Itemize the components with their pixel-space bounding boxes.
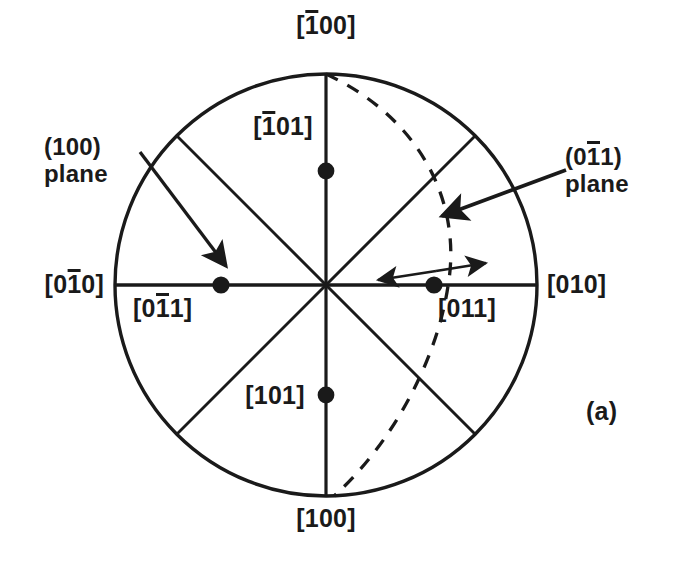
double-headed-arrow-left (378, 271, 436, 280)
pole-upper (318, 163, 335, 180)
stereographic-projection-figure: [100] [100] [010] [010] [101] [101] [011… (0, 0, 685, 571)
annotation-plane-100: (100) plane (44, 133, 108, 188)
annotation-plane-011-line1: (011) (565, 143, 629, 170)
label-pole-lower-left: [101] (245, 382, 304, 409)
label-pole-left-inner: [011] (133, 295, 192, 322)
label-direction-top: [100] (296, 12, 355, 39)
overbar-char: 1 (305, 12, 319, 39)
pole-right (425, 276, 442, 293)
label-pole-right-inner: [011] (438, 295, 496, 322)
label-direction-right-outer: [010] (547, 271, 606, 298)
arrow-plane-011 (442, 170, 566, 216)
overbar-char: 1 (587, 143, 601, 170)
overbar-char: 1 (156, 295, 170, 322)
label-pole-upper-left: [101] (253, 113, 312, 140)
pole-left (212, 276, 229, 293)
annotation-plane-011-line2: plane (565, 170, 629, 197)
pole-lower (318, 387, 335, 404)
annotation-plane-100-line2: plane (44, 160, 108, 187)
label-direction-left-outer: [010] (45, 271, 104, 298)
annotation-plane-100-line1: (100) (44, 133, 108, 160)
label-direction-bottom: [100] (296, 505, 355, 532)
arrow-plane-100 (140, 152, 226, 266)
panel-label: (a) (586, 398, 617, 425)
double-headed-arrow-right (436, 263, 486, 271)
annotation-plane-011: (011) plane (565, 143, 629, 198)
overbar-char: 1 (262, 113, 276, 140)
overbar-char: 1 (67, 271, 81, 298)
